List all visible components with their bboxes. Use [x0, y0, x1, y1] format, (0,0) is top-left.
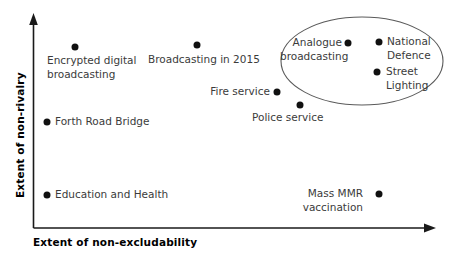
label-national-defence: National Defence: [387, 35, 449, 62]
point-police-service[interactable]: [297, 102, 304, 109]
point-forth-road-bridge[interactable]: [44, 119, 51, 126]
label-forth-road-bridge: Forth Road Bridge: [55, 115, 185, 129]
label-police-service: Police service: [252, 111, 362, 125]
point-broadcasting-in-2015[interactable]: [194, 42, 201, 49]
y-axis-title: Extent of non-rivalry: [14, 72, 26, 198]
point-analogue-broadcasting[interactable]: [345, 40, 352, 47]
label-analogue-broadcasting: Analogue broadcasting: [280, 36, 342, 63]
point-mass-mmr-vaccination[interactable]: [376, 191, 383, 198]
point-street-lighting[interactable]: [374, 69, 381, 76]
point-encrypted-digital-broadcasting[interactable]: [72, 44, 79, 51]
label-street-lighting: Street Lighting: [386, 65, 448, 92]
public-goods-scatter-chart: Extent of non-excludability Extent of no…: [0, 0, 454, 265]
point-education-and-health[interactable]: [44, 192, 51, 199]
chart-canvas: [0, 0, 454, 265]
label-fire-service: Fire service: [196, 85, 270, 99]
point-fire-service[interactable]: [274, 89, 281, 96]
label-education-and-health: Education and Health: [55, 188, 215, 202]
y-axis-arrowhead: [29, 13, 38, 25]
label-broadcasting-in-2015: Broadcasting in 2015: [148, 53, 278, 67]
point-national-defence[interactable]: [376, 39, 383, 46]
label-mass-mmr-vaccination: Mass MMR vaccination: [252, 187, 363, 214]
x-axis-arrowhead: [424, 224, 436, 233]
x-axis-title: Extent of non-excludability: [33, 236, 197, 248]
